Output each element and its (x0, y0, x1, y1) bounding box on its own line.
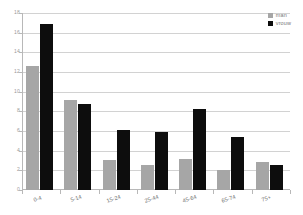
x-tickmark (137, 190, 138, 194)
bar-group-65-74 (213, 13, 251, 190)
legend-item-man[interactable]: man (268, 13, 291, 19)
y-tick-label: 8 (0, 108, 20, 113)
bar-vrouw-75-plus[interactable] (270, 165, 283, 190)
y-tick-label: 0 (0, 187, 20, 192)
bar-group-25-44 (137, 13, 175, 190)
x-tickmark (99, 190, 100, 194)
bar-vrouw-65-74[interactable] (231, 137, 244, 190)
bar-chart: 18 16 14 12 10 8 6 4 2 0 (0, 0, 303, 215)
x-tickmark (252, 190, 253, 194)
y-tick-label: 14 (0, 49, 20, 54)
bar-group-75-plus (252, 13, 290, 190)
legend-label-vrouw: vrouw (276, 21, 291, 27)
x-tickmark (175, 190, 176, 194)
x-tickmark (213, 190, 214, 194)
x-tick-label-0-4: 0-4 (33, 195, 43, 203)
x-tick-label-45-64: 45-64 (182, 194, 198, 204)
bar-group-0-4 (22, 13, 60, 190)
x-tick-label-15-24: 15-24 (106, 194, 122, 204)
x-tick-label-75-plus: 75+ (261, 195, 272, 203)
bar-vrouw-15-24[interactable] (117, 130, 130, 190)
bar-man-0-4[interactable] (26, 66, 39, 190)
y-tick-label: 12 (0, 69, 20, 74)
bar-group-5-14 (60, 13, 98, 190)
bar-group-45-64 (175, 13, 213, 190)
bar-vrouw-45-64[interactable] (193, 109, 206, 190)
legend-swatch-man-icon (268, 13, 273, 18)
bar-man-15-24[interactable] (103, 160, 116, 191)
bar-group-15-24 (99, 13, 137, 190)
y-tick-label: 16 (0, 30, 20, 35)
y-axis: 18 16 14 12 10 8 6 4 2 0 (0, 0, 20, 215)
x-tickmark (290, 190, 291, 194)
y-tick-label: 2 (0, 167, 20, 172)
bar-vrouw-0-4[interactable] (40, 24, 53, 190)
bar-man-25-44[interactable] (141, 165, 154, 190)
y-tick-label: 4 (0, 148, 20, 153)
y-tick-label: 18 (0, 10, 20, 15)
x-tick-label-5-14: 5-14 (70, 194, 83, 203)
bar-vrouw-5-14[interactable] (78, 104, 91, 191)
x-tick-label-65-74: 65-74 (221, 194, 237, 204)
legend: man vrouw (268, 13, 291, 26)
bar-man-75-plus[interactable] (256, 162, 269, 190)
y-tick-label: 10 (0, 89, 20, 94)
x-tickmark (22, 190, 23, 194)
x-tick-label-25-44: 25-44 (144, 194, 160, 204)
bar-man-5-14[interactable] (64, 100, 77, 191)
legend-swatch-vrouw-icon (268, 21, 273, 26)
bar-vrouw-25-44[interactable] (155, 132, 168, 191)
bar-man-45-64[interactable] (179, 159, 192, 191)
x-tickmark (60, 190, 61, 194)
bar-man-65-74[interactable] (217, 170, 230, 190)
legend-label-man: man (276, 13, 287, 19)
bar-groups (22, 13, 290, 190)
legend-item-vrouw[interactable]: vrouw (268, 21, 291, 27)
y-tick-label: 6 (0, 128, 20, 133)
